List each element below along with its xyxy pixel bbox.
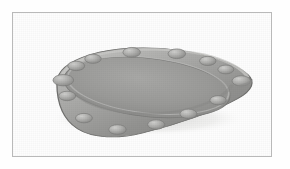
rim-bead (109, 125, 127, 135)
rim-bead (218, 65, 234, 74)
beaded-oval-dish-illustration (13, 13, 271, 156)
rim-bead (85, 54, 102, 63)
rim-bead (200, 56, 217, 65)
rim-bead (53, 74, 74, 85)
rim-bead (210, 96, 227, 105)
rim-bead (168, 49, 186, 59)
rim-bead (59, 91, 76, 100)
rim-bead (123, 47, 141, 57)
rim-bead (148, 120, 165, 129)
photo-canvas (13, 13, 271, 156)
rim-bead (180, 109, 197, 118)
photo-frame (12, 12, 272, 157)
figure-root: Leaf-shaped shallow stone dish with bead… (0, 0, 290, 169)
rim-bead (75, 113, 92, 122)
rim-bead (68, 61, 85, 70)
